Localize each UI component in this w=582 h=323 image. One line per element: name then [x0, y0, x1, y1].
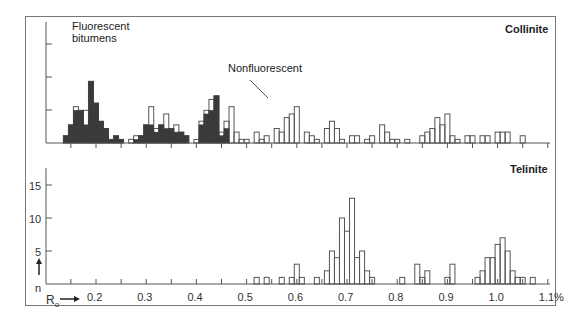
- filled-bar: [174, 132, 179, 143]
- open-bar: [264, 136, 269, 143]
- open-bar: [450, 136, 455, 143]
- filled-bar: [169, 128, 174, 143]
- open-bar: [495, 132, 500, 143]
- open-bar: [475, 277, 480, 284]
- open-bar: [360, 251, 365, 284]
- open-bar: [254, 132, 259, 143]
- open-bar: [294, 107, 299, 143]
- filled-bar: [224, 128, 229, 143]
- open-bar: [339, 218, 344, 284]
- filled-bar: [209, 110, 214, 143]
- ytick-10: 10: [29, 213, 41, 225]
- open-bar: [390, 139, 395, 143]
- open-bar: [520, 136, 525, 143]
- filled-bar: [114, 136, 119, 143]
- open-bar: [490, 258, 495, 284]
- filled-bar: [179, 132, 184, 143]
- open-bar: [385, 132, 390, 143]
- open-bar: [430, 128, 435, 143]
- open-bar: [445, 114, 450, 143]
- open-bar: [470, 136, 475, 143]
- open-bar: [515, 277, 520, 284]
- open-bar: [355, 258, 360, 284]
- open-bar: [244, 139, 249, 143]
- x-tick-label: 0.9: [438, 291, 453, 303]
- open-bar: [510, 271, 515, 284]
- open-bar: [279, 277, 284, 284]
- filled-bar: [119, 139, 124, 143]
- open-bar: [505, 132, 510, 143]
- x-tick-label: 0.2: [87, 291, 102, 303]
- open-bar: [465, 136, 470, 143]
- x-tick-label: 0.7: [338, 291, 353, 303]
- open-bar: [309, 136, 314, 143]
- filled-bar: [93, 103, 98, 143]
- fluorescent-label-line2: bitumens: [72, 32, 129, 44]
- open-bar: [355, 136, 360, 143]
- open-bar: [500, 238, 505, 284]
- x-tick-label: 0.6: [288, 291, 303, 303]
- open-bar: [495, 244, 500, 284]
- open-bar: [420, 136, 425, 143]
- filled-bar: [99, 121, 104, 143]
- filled-bar: [73, 110, 78, 143]
- filled-bar: [149, 125, 154, 143]
- y-axis-label: n: [35, 282, 41, 294]
- telinite-title: Telinite: [510, 163, 548, 175]
- histogram-plot: [0, 0, 582, 323]
- open-bar: [480, 136, 485, 143]
- open-bar: [279, 132, 284, 143]
- open-bar: [500, 132, 505, 143]
- filled-bar: [144, 125, 149, 143]
- open-bar: [450, 264, 455, 284]
- x-axis-label-sub: o: [55, 300, 59, 309]
- filled-bar: [219, 136, 224, 143]
- open-bar: [289, 114, 294, 143]
- open-bar: [289, 277, 294, 284]
- open-bar: [234, 132, 239, 143]
- open-bar: [440, 125, 445, 143]
- open-bar: [334, 128, 339, 143]
- x-axis-label: Ro: [46, 293, 59, 309]
- open-bar: [485, 136, 490, 143]
- open-bar: [415, 264, 420, 284]
- open-bar: [239, 139, 244, 143]
- open-bar: [425, 132, 430, 143]
- open-bar: [314, 139, 319, 143]
- open-bar: [229, 107, 234, 143]
- open-bar: [505, 251, 510, 284]
- open-bar: [324, 128, 329, 143]
- ytick-5: 5: [35, 246, 41, 258]
- filled-bar: [68, 125, 73, 143]
- open-bar: [264, 277, 269, 284]
- open-bar: [350, 136, 355, 143]
- x-tick-label: 0.4: [187, 291, 202, 303]
- filled-bar: [63, 136, 68, 143]
- ytick-15: 15: [29, 180, 41, 192]
- open-bar: [455, 139, 460, 143]
- x-tick-label: 0.8: [388, 291, 403, 303]
- open-bar: [314, 277, 319, 284]
- filled-bar: [204, 114, 209, 143]
- open-bar: [324, 271, 329, 284]
- open-bar: [299, 277, 304, 284]
- open-bar: [425, 271, 430, 284]
- filled-bar: [214, 96, 219, 143]
- x-axis-label-r: R: [46, 293, 55, 307]
- x-tick-label: 1.0: [489, 291, 504, 303]
- open-bar: [405, 139, 410, 143]
- open-bar: [485, 258, 490, 284]
- filled-bar: [164, 128, 169, 143]
- open-bar: [350, 198, 355, 284]
- open-bar: [129, 139, 134, 143]
- open-bar: [194, 139, 199, 143]
- filled-bar: [83, 125, 88, 143]
- filled-bar: [199, 125, 204, 143]
- open-bar: [365, 271, 370, 284]
- open-bar: [370, 136, 375, 143]
- open-bar: [344, 231, 349, 284]
- open-bar: [435, 118, 440, 143]
- open-bar: [530, 277, 535, 284]
- open-bar: [400, 277, 405, 284]
- open-bar: [334, 258, 339, 284]
